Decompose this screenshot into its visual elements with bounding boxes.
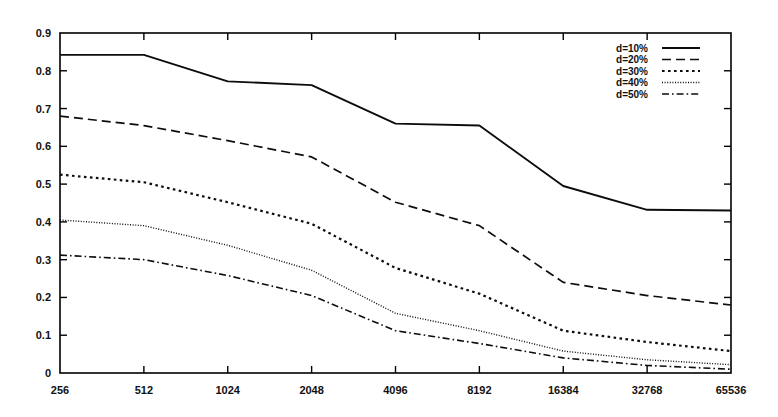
plot-background [0, 0, 778, 417]
x-tick-label: 1024 [216, 384, 241, 396]
y-tick-label: 0 [45, 367, 51, 379]
legend-label-d10: d=10% [616, 43, 648, 54]
y-tick-label: 0.2 [36, 291, 51, 303]
y-tick-label: 0.1 [36, 329, 51, 341]
y-tick-label: 0.7 [36, 103, 51, 115]
y-tick-label: 0.9 [36, 27, 51, 39]
legend-label-d30: d=30% [616, 66, 648, 77]
x-tick-label: 32768 [632, 384, 663, 396]
x-tick-label: 512 [135, 384, 153, 396]
y-tick-label: 0.3 [36, 254, 51, 266]
x-tick-label: 16384 [548, 384, 579, 396]
x-tick-label: 8192 [467, 384, 491, 396]
line-chart-canvas: 00.10.20.30.40.50.60.70.80.9 25651210242… [0, 0, 778, 417]
x-tick-label: 256 [51, 384, 69, 396]
x-tick-label: 2048 [299, 384, 323, 396]
y-tick-label: 0.5 [36, 178, 51, 190]
y-tick-label: 0.6 [36, 140, 51, 152]
chart-figure: 00.10.20.30.40.50.60.70.80.9 25651210242… [0, 0, 778, 417]
legend-label-d50: d=50% [616, 89, 648, 100]
x-tick-label: 65536 [716, 384, 747, 396]
x-tick-label: 4096 [383, 384, 407, 396]
legend-label-d20: d=20% [616, 54, 648, 65]
legend-label-d40: d=40% [616, 77, 648, 88]
y-tick-label: 0.8 [36, 65, 51, 77]
y-tick-label: 0.4 [36, 216, 52, 228]
